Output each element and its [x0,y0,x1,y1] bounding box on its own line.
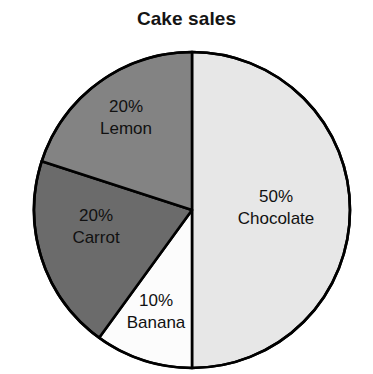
pie-label-lemon-percent: 20% [74,96,178,118]
pie-label-chocolate-percent: 50% [216,186,336,208]
pie-label-banana-name: Banana [104,312,208,334]
pie-label-chocolate-name: Chocolate [216,208,336,230]
pie-label-carrot: 20% Carrot [44,205,148,249]
pie-label-lemon: 20% Lemon [74,96,178,140]
pie-label-banana: 10% Banana [104,290,208,334]
pie-label-lemon-name: Lemon [74,118,178,140]
pie-label-carrot-percent: 20% [44,205,148,227]
pie-chart: Cake sales 50% Chocolate 10% Banana 20% … [0,0,373,374]
pie-label-chocolate: 50% Chocolate [216,186,336,230]
pie-label-carrot-name: Carrot [44,227,148,249]
pie-label-banana-percent: 10% [104,290,208,312]
